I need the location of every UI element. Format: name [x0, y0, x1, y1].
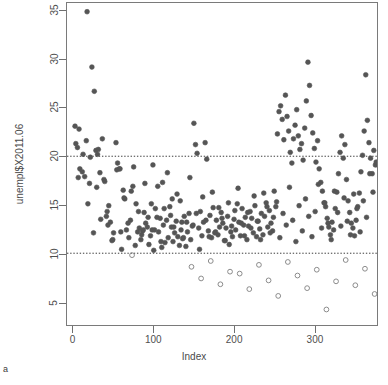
data-point-filled [106, 203, 111, 208]
data-point-filled [155, 184, 160, 189]
data-point-filled [115, 161, 120, 166]
data-point-open [353, 283, 358, 288]
data-point-filled [225, 214, 230, 219]
data-point-filled [235, 201, 240, 206]
data-point-open [199, 276, 204, 281]
data-point-filled [228, 230, 233, 235]
data-point-filled [105, 209, 110, 214]
data-point-filled [283, 93, 288, 98]
data-point-filled [304, 99, 309, 104]
data-point-filled [182, 214, 187, 219]
data-point-filled [200, 233, 205, 238]
data-point-filled [359, 169, 364, 174]
data-point-filled [170, 197, 175, 202]
data-point-filled [175, 192, 180, 197]
data-point-filled [268, 230, 273, 235]
y-axis-tick-labels: 5101520253035 [0, 2, 56, 326]
data-point-filled [220, 221, 225, 226]
data-point-filled [94, 185, 99, 190]
data-point-filled [245, 210, 250, 215]
data-point-filled [309, 113, 314, 118]
data-point-filled [143, 181, 148, 186]
data-point-open [228, 269, 233, 274]
data-point-open [324, 307, 329, 312]
data-point-filled [179, 220, 184, 225]
data-point-filled [98, 170, 103, 175]
data-point-filled [287, 185, 292, 190]
data-point-filled [243, 215, 248, 220]
data-point-filled [126, 221, 131, 226]
data-point-filled [149, 201, 154, 206]
data-point-filled [130, 184, 135, 189]
data-point-filled [232, 208, 237, 213]
data-point-filled [310, 234, 315, 239]
data-point-filled [257, 227, 262, 232]
data-point-filled [118, 230, 123, 235]
data-point-filled [351, 226, 356, 231]
y-axis-tick [59, 303, 66, 304]
data-point-filled [188, 237, 193, 242]
data-point-filled [339, 133, 344, 138]
data-point-filled [224, 226, 229, 231]
data-point-filled [192, 121, 197, 126]
data-point-filled [236, 186, 241, 191]
data-point-filled [151, 248, 156, 253]
data-point-open [208, 259, 213, 264]
data-point-open [266, 278, 271, 283]
data-point-filled [290, 218, 295, 223]
data-point-filled [367, 140, 372, 145]
data-point-filled [206, 229, 211, 234]
data-point-filled [299, 141, 304, 146]
data-point-filled [81, 152, 86, 157]
data-point-filled [261, 232, 266, 237]
data-point-filled [363, 72, 368, 77]
data-point-filled [312, 146, 317, 151]
data-point-filled [351, 192, 356, 197]
y-axis-tick [59, 254, 66, 255]
data-point-filled [374, 160, 377, 165]
data-point-filled [104, 214, 109, 219]
data-point-filled [152, 228, 157, 233]
data-point-filled [315, 138, 320, 143]
data-point-open [363, 266, 368, 271]
data-point-filled [298, 147, 303, 152]
data-point-filled [146, 215, 151, 220]
data-point-open [247, 287, 252, 292]
data-point-filled [232, 217, 237, 222]
data-point-filled [274, 199, 279, 204]
data-point-filled [162, 206, 167, 211]
data-point-filled [293, 123, 298, 128]
data-point-filled [281, 137, 286, 142]
x-axis-tick [315, 326, 316, 333]
data-point-filled [114, 140, 119, 145]
data-point-filled [275, 132, 280, 137]
data-point-filled [229, 224, 234, 229]
data-point-filled [261, 191, 266, 196]
data-point-filled [129, 189, 134, 194]
data-point-filled [286, 129, 291, 134]
data-point-open [305, 286, 310, 291]
data-point-filled [167, 204, 172, 209]
x-axis-line [66, 326, 378, 334]
data-point-filled [102, 179, 107, 184]
data-point-filled [341, 156, 346, 161]
data-point-open [130, 253, 135, 258]
x-axis-tick [234, 326, 235, 333]
data-point-filled [338, 150, 343, 155]
data-point-filled [91, 230, 96, 235]
data-point-filled [95, 152, 100, 157]
data-point-filled [217, 225, 222, 230]
data-point-filled [342, 142, 347, 147]
data-point-open [237, 271, 242, 276]
data-point-filled [139, 232, 144, 237]
data-point-filled [219, 210, 224, 215]
data-point-filled [153, 206, 158, 211]
data-point-filled [134, 201, 139, 206]
data-point-filled [269, 221, 274, 226]
data-point-filled [82, 174, 87, 179]
data-point-filled [271, 215, 276, 220]
data-point-filled [251, 230, 256, 235]
data-point-filled [326, 221, 331, 226]
data-point-filled [371, 148, 376, 153]
data-point-filled [223, 238, 228, 243]
